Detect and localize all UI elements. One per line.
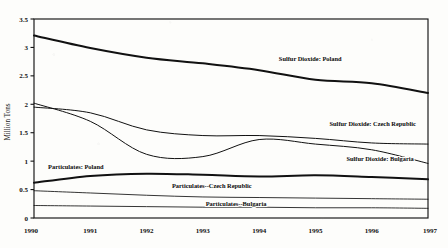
- series-label: Sulfur Dioxide: Poland: [279, 55, 342, 62]
- y-tick-label: 2.5: [19, 72, 28, 80]
- series-label: Particulates--Czech Republic: [172, 182, 252, 189]
- x-tick-label: 1994: [252, 227, 267, 235]
- series-label: Particulates: Poland: [48, 163, 104, 170]
- y-tick-label: 1.5: [19, 129, 28, 137]
- y-tick-label: 2: [25, 101, 29, 109]
- chart-figure: 00.511.522.533.5 19901991199219931994199…: [0, 0, 448, 248]
- y-tick-label: 0: [25, 215, 29, 223]
- x-axis-ticks: 19901991199219931994199519961997: [24, 227, 438, 235]
- x-tick-label: 1992: [140, 227, 155, 235]
- line-chart-canvas: 00.511.522.533.5 19901991199219931994199…: [0, 0, 448, 248]
- y-tick-label: 0.5: [19, 186, 28, 194]
- x-tick-label: 1993: [196, 227, 211, 235]
- y-tick-label: 1: [25, 158, 29, 166]
- x-tick-label: 1990: [24, 227, 39, 235]
- y-axis-ticks: 00.511.522.533.5: [19, 16, 34, 223]
- x-tick-label: 1997: [423, 227, 438, 235]
- series-line: Particulates--Czech Republic: [34, 191, 428, 200]
- y-tick-label: 3.5: [19, 16, 28, 24]
- x-tick-label: 1996: [365, 227, 380, 235]
- y-tick-label: 3: [25, 44, 29, 52]
- series-label: Sulfur Dioxide: Bulgaria: [346, 155, 414, 162]
- series-line: Sulfur Dioxide: Poland: [34, 35, 428, 92]
- series-label: Sulfur Dioxide: Czech Republic: [330, 120, 416, 127]
- x-tick-label: 1995: [308, 227, 323, 235]
- series-label-group: Sulfur Dioxide: PolandSulfur Dioxide: Po…: [48, 55, 416, 207]
- y-axis-title: Million Tons: [4, 103, 12, 140]
- x-tick-label: 1991: [83, 227, 98, 235]
- series-label: Particulates--Bulgaria: [206, 200, 268, 207]
